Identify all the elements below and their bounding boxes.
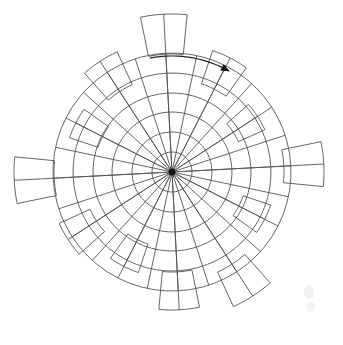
polar-bar-axis-90 bbox=[172, 164, 324, 172]
polar-bar-300 bbox=[70, 109, 109, 147]
rotation-direction-arrow bbox=[150, 56, 230, 72]
polar-bar-60 bbox=[227, 104, 265, 141]
polar-bar-330 bbox=[85, 52, 133, 100]
polar-bar-axis-300 bbox=[76, 123, 172, 172]
polar-bar-axis-180 bbox=[172, 172, 179, 310]
polar-rose-figure bbox=[0, 0, 343, 345]
chart-center-hub bbox=[169, 169, 176, 176]
polar-bar-30 bbox=[202, 51, 247, 97]
polar-bar-axis-210 bbox=[124, 172, 172, 266]
paper-artifact-group bbox=[304, 285, 315, 312]
polar-bar-150 bbox=[218, 254, 270, 306]
polar-bar-240 bbox=[59, 209, 104, 254]
polar-bar-axis-30 bbox=[172, 58, 230, 172]
polar-rose-chart bbox=[0, 0, 343, 345]
angular-gridline-group bbox=[14, 14, 324, 310]
